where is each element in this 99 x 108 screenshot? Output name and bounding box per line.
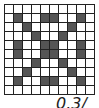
grid-cell	[5, 50, 14, 59]
grid-cell	[23, 41, 32, 50]
grid-cell	[14, 50, 23, 59]
grid-cell	[41, 32, 50, 41]
grid-cell	[41, 77, 50, 86]
grid-caption: 0.3/	[56, 96, 87, 108]
grid-cell	[32, 14, 41, 23]
grid-cell	[41, 50, 50, 59]
grid-cell	[14, 68, 23, 77]
grid-cell	[59, 5, 68, 14]
grid-cell	[68, 32, 77, 41]
grid-cell	[23, 5, 32, 14]
grid-cell	[32, 41, 41, 50]
grid-cell	[50, 5, 59, 14]
grid-cell	[86, 32, 95, 41]
grid-cell	[23, 50, 32, 59]
grid-cell	[50, 41, 59, 50]
grid-cell	[32, 59, 41, 68]
grid-cell	[86, 68, 95, 77]
grid-cell	[86, 50, 95, 59]
grid-cell	[68, 41, 77, 50]
grid-cell	[32, 5, 41, 14]
grid-cell	[77, 14, 86, 23]
grid-cell	[41, 59, 50, 68]
grid-cell	[41, 68, 50, 77]
grid-cell	[14, 14, 23, 23]
grid-cell	[23, 14, 32, 23]
grid-cell	[68, 23, 77, 32]
grid-cell	[68, 59, 77, 68]
grid-cell	[86, 59, 95, 68]
grid-cell	[77, 77, 86, 86]
grid-cell	[32, 23, 41, 32]
grid-cell	[41, 41, 50, 50]
grid-cell	[14, 86, 23, 95]
grid-cell	[23, 59, 32, 68]
grid-cell	[59, 32, 68, 41]
grid-cell	[23, 32, 32, 41]
grid-cell	[5, 14, 14, 23]
grid-cell	[59, 77, 68, 86]
grid-cell	[32, 50, 41, 59]
grid-cell	[5, 32, 14, 41]
grid-cell	[5, 86, 14, 95]
grid-cell	[41, 14, 50, 23]
grid-cell	[86, 41, 95, 50]
grid-cell	[32, 77, 41, 86]
grid-cell	[59, 41, 68, 50]
grid-cell	[32, 86, 41, 95]
grid-cell	[23, 68, 32, 77]
grid-cell	[5, 68, 14, 77]
grid-cell	[86, 86, 95, 95]
grid-cell	[86, 77, 95, 86]
grid-cell	[50, 14, 59, 23]
grid-cell	[68, 68, 77, 77]
grid-cell	[41, 5, 50, 14]
grid-cell	[77, 68, 86, 77]
grid-cell	[59, 50, 68, 59]
grid-cell	[77, 5, 86, 14]
grid-cell	[77, 50, 86, 59]
grid-cell	[59, 23, 68, 32]
grid-cell	[5, 41, 14, 50]
grid-cell	[50, 50, 59, 59]
grid-cell	[23, 23, 32, 32]
grid-cell	[59, 68, 68, 77]
grid-cell	[86, 23, 95, 32]
grid-cell	[41, 23, 50, 32]
grid-cell	[50, 68, 59, 77]
grid-cell	[77, 23, 86, 32]
grid-cell	[86, 14, 95, 23]
grid-cell	[14, 23, 23, 32]
grid-cell	[59, 14, 68, 23]
grid-cell	[86, 5, 95, 14]
grid-cell	[59, 59, 68, 68]
grid-cell	[5, 5, 14, 14]
grid-cell	[68, 77, 77, 86]
pattern-grid	[4, 4, 95, 95]
grid-cell	[32, 32, 41, 41]
grid-cell	[5, 23, 14, 32]
grid-cell	[50, 32, 59, 41]
grid-cell	[41, 86, 50, 95]
grid-cell	[14, 32, 23, 41]
grid-cell	[14, 5, 23, 14]
grid-cell	[23, 86, 32, 95]
grid-cell	[68, 50, 77, 59]
grid-cell	[14, 77, 23, 86]
grid-cell	[50, 59, 59, 68]
grid-cell	[77, 41, 86, 50]
grid-cell	[77, 32, 86, 41]
grid-cell	[77, 59, 86, 68]
grid-cell	[68, 5, 77, 14]
grid-cell	[68, 14, 77, 23]
grid-cell	[5, 59, 14, 68]
grid-cell	[50, 77, 59, 86]
grid-cell	[50, 23, 59, 32]
grid-cell	[5, 77, 14, 86]
grid-cell	[14, 59, 23, 68]
grid-cell	[14, 41, 23, 50]
grid-cell	[23, 77, 32, 86]
grid-cell	[32, 68, 41, 77]
